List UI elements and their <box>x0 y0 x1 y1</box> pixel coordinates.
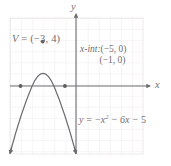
x-axis-label: x <box>155 79 160 91</box>
vertex-label-prefix: V <box>12 33 18 44</box>
equation-label: y = −x2 − 6x − 5 <box>79 113 146 126</box>
x-intercept-point-left <box>19 84 23 88</box>
x-intercept-caption: x-int: <box>80 44 101 54</box>
x-intercept-point-right <box>63 84 67 88</box>
equation-term2: 6x <box>120 114 130 125</box>
vertex-label-x: −3 <box>34 33 46 44</box>
equation-term3: 5 <box>141 114 146 125</box>
equation-lhs: y <box>79 114 84 125</box>
graph-figure: V = (−3, 4) x-int:(−5, 0) (−1, 0) y = −x… <box>0 0 171 166</box>
coordinate-plane-svg <box>0 0 171 166</box>
vertex-label: V = (−3, 4) <box>12 33 60 45</box>
equation-term3-sign: − <box>132 114 138 125</box>
vertex-label-close-paren: ) <box>57 33 61 44</box>
equation-equals: = <box>86 114 92 125</box>
y-axis-label: y <box>71 1 76 13</box>
x-intercept-point-1: (−5, 0) <box>101 44 127 54</box>
vertex-label-comma: , <box>46 33 49 44</box>
equation-term2-sign: − <box>111 114 117 125</box>
vertex-label-equals: = <box>21 33 27 44</box>
equation-term1-exponent: 2 <box>105 113 108 120</box>
x-intercept-point-2: (−1, 0) <box>80 55 127 66</box>
x-intercept-label: x-int:(−5, 0) (−1, 0) <box>80 44 127 66</box>
